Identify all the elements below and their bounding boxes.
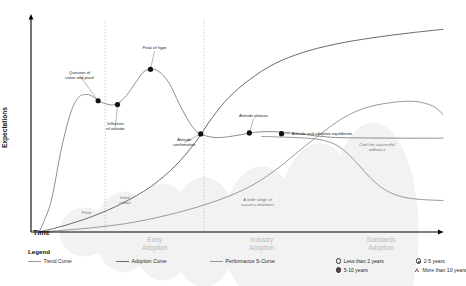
marker-dot: [247, 130, 252, 135]
leader-line: [115, 105, 117, 127]
marker-dot: [148, 67, 153, 72]
y-axis-arrow: [29, 14, 34, 20]
legend-item-2-5-years: 2-5 years: [416, 258, 445, 264]
legend-label: Adoption Curve: [132, 258, 167, 264]
y-axis-title: Expectations: [1, 107, 8, 148]
legend-item-performance-s-curve: Performance S-Curve: [210, 258, 275, 264]
marker-dot: [279, 131, 284, 136]
legend-item-more-than-10-years: More than 10 years: [416, 267, 466, 273]
legend-label: 2-5 years: [424, 258, 445, 264]
legend-item-adoption-curve: Adoption Curve: [116, 258, 167, 264]
x-axis-arrow: [438, 230, 443, 235]
legend-line-swatch-icon: [116, 261, 129, 262]
leader-line: [80, 76, 99, 101]
marker-dots: [96, 67, 285, 137]
legend-item-less-than-2-years: Less than 2 years: [336, 258, 384, 264]
circle-dot-icon: [416, 258, 421, 263]
circle-hollow-icon: [336, 258, 341, 263]
legend-label: Less than 2 years: [344, 258, 384, 264]
legend-item-5-10-years: 5-10 years: [336, 267, 368, 273]
leader-line: [150, 51, 154, 69]
legend-label: Performance S-Curve: [226, 258, 275, 264]
marker-dot: [96, 98, 101, 103]
legend-item-trend-curve: Trend Curve: [28, 258, 72, 264]
chart-legend: Legend Trend CurveAdoption CurvePerforma…: [28, 248, 446, 276]
legend-label: Trend Curve: [44, 258, 72, 264]
legend-row-symbols: 5-10 yearsMore than 10 years: [28, 267, 446, 276]
legend-title: Legend: [28, 248, 446, 255]
x-axis-title: Time: [33, 228, 50, 237]
legend-label: More than 10 years: [423, 267, 466, 273]
legend-label: 5-10 years: [344, 267, 368, 273]
legend-line-swatch-icon: [28, 261, 41, 262]
marker-dot: [198, 131, 203, 136]
legend-row-lines: Trend CurveAdoption CurvePerformance S-C…: [28, 258, 446, 267]
triangle-icon: [416, 268, 420, 272]
legend-line-swatch-icon: [210, 261, 223, 262]
marker-dot: [115, 102, 120, 107]
circle-filled-icon: [336, 267, 341, 272]
leader-lines: [80, 51, 290, 143]
